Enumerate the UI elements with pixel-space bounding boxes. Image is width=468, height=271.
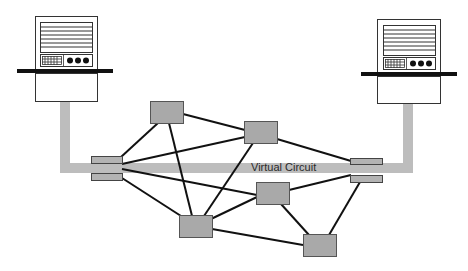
host-computer-right [361,20,457,104]
link-edge-left-node-4 [122,178,181,216]
network-diagram: Virtual Circuit [0,0,468,271]
link-node-3-node-4 [211,197,257,219]
link-node-3-edge-right [289,175,351,190]
virtual-circuit-label: Virtual Circuit [251,161,316,173]
switch-node-5 [304,235,337,257]
link-node-4-node-5 [212,229,303,245]
dial-buttons-icon [410,61,432,67]
link-node-2-node-4 [204,143,253,216]
switch-node-2 [245,122,278,144]
switch-node-3 [257,183,290,205]
link-node-1-node-2 [183,114,245,130]
link-edge-left-node-2 [122,137,245,164]
host-computer-left [17,17,113,102]
desk-bar [17,69,113,73]
link-edge-right-node-5 [329,182,360,235]
switch-node-1 [151,102,184,124]
network-links [121,114,360,245]
dial-buttons-icon [67,58,89,64]
link-node-2-edge-right [277,139,351,161]
desk-bar [361,72,457,76]
link-edge-left-node-1 [121,123,158,157]
link-node-3-node-5 [281,204,309,235]
switch-node-4 [180,216,213,238]
